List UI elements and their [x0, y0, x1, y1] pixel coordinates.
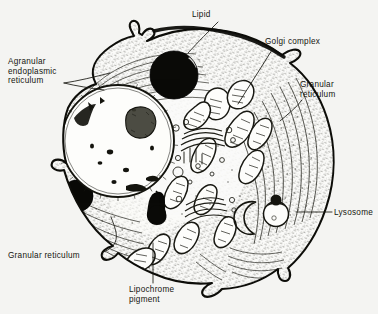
label-line-lipochrome: Lipochrome — [129, 285, 174, 295]
label-line-endoplasmic: endoplasmic — [8, 67, 57, 77]
cell-body — [0, 0, 378, 314]
label-agranular-endoplasmic-reticulum: Agranular endoplasmic reticulum — [8, 57, 57, 86]
cell-diagram-figure: Lipid Golgi complex Agranular endoplasmi… — [0, 0, 378, 314]
label-line-agranular: Agranular — [8, 57, 57, 67]
label-lipid: Lipid — [192, 10, 211, 20]
cell-diagram-canvas — [0, 0, 378, 314]
label-lysosome: Lysosome — [334, 208, 373, 218]
nucleolus — [126, 107, 156, 138]
label-line-granular: Granular — [300, 80, 335, 90]
label-line-reticulum-right: reticulum — [300, 90, 335, 100]
label-line-pigment: pigment — [129, 295, 174, 305]
label-lipochrome-pigment: Lipochrome pigment — [129, 285, 174, 304]
label-granular-reticulum-right: Granular reticulum — [300, 80, 335, 99]
label-golgi-complex: Golgi complex — [265, 37, 320, 47]
label-line-reticulum: reticulum — [8, 76, 57, 86]
label-granular-reticulum-left: Granular reticulum — [8, 251, 80, 261]
